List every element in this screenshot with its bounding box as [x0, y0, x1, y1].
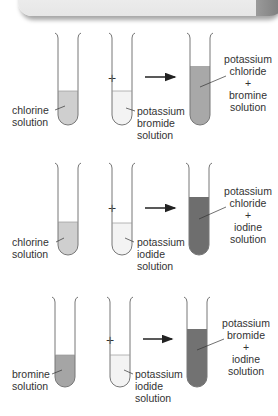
label-reactant1: chlorine solution [12, 236, 64, 260]
reaction-2: + chlorine solution potassium iodide sol… [12, 163, 272, 272]
svg-text:solution: solution [137, 129, 173, 141]
liquid-fill [190, 66, 210, 125]
test-tube-product [186, 163, 212, 255]
svg-text:potassium: potassium [135, 368, 183, 380]
svg-text:chloride: chloride [230, 65, 267, 77]
label-product: potassium bromide + iodine solution [197, 317, 270, 377]
svg-text:solution: solution [12, 116, 48, 128]
test-tube-product [184, 297, 210, 387]
reaction-diagram: + chlorine solution potassium bromide so… [0, 0, 278, 416]
svg-text:potassium: potassium [224, 185, 272, 197]
liquid-fill [58, 222, 78, 255]
label-reactant2: potassium bromide solution [126, 105, 185, 141]
svg-text:solution: solution [230, 233, 266, 245]
liquid-fill [55, 355, 75, 387]
svg-text:solution: solution [12, 248, 48, 260]
svg-text:solution: solution [137, 260, 173, 272]
svg-text:bromine: bromine [12, 368, 50, 380]
test-tube-chlorine [55, 33, 81, 125]
liquid-fill [189, 197, 209, 255]
svg-text:+: + [245, 77, 251, 89]
liquid-fill [187, 329, 207, 387]
test-tube-product [187, 33, 213, 125]
label-product: potassium chloride + bromine solution [200, 53, 272, 113]
svg-text:solution: solution [12, 380, 48, 392]
svg-text:solution: solution [230, 101, 266, 113]
svg-text:iodide: iodide [137, 248, 165, 260]
liquid-fill [112, 223, 132, 255]
svg-text:potassium: potassium [224, 53, 272, 65]
svg-text:solution: solution [228, 365, 264, 377]
svg-text:solution: solution [135, 392, 171, 404]
svg-text:iodide: iodide [135, 380, 163, 392]
svg-text:bromine: bromine [229, 89, 267, 101]
svg-text:potassium: potassium [137, 236, 185, 248]
svg-text:bromide: bromide [137, 117, 175, 129]
test-tube-bromine [52, 297, 78, 387]
svg-text:potassium: potassium [137, 105, 185, 117]
label-product: potassium chloride + iodine solution [199, 185, 272, 245]
liquid-fill [58, 91, 78, 125]
reaction-3: + bromine solution potassium iodide solu… [12, 297, 270, 404]
svg-text:bromide: bromide [227, 329, 265, 341]
label-reactant2: potassium iodide solution [124, 368, 183, 404]
svg-text:chlorine: chlorine [12, 104, 49, 116]
svg-text:chlorine: chlorine [12, 236, 49, 248]
svg-text:iodine: iodine [232, 353, 260, 365]
label-reactant2: potassium iodide solution [125, 236, 185, 272]
test-tube-chlorine [55, 163, 81, 255]
reaction-1: + chlorine solution potassium bromide so… [12, 33, 272, 141]
svg-text:+: + [245, 209, 251, 221]
label-reactant1: chlorine solution [12, 104, 65, 128]
svg-text:+: + [243, 341, 249, 353]
svg-text:iodine: iodine [234, 221, 262, 233]
liquid-fill [112, 91, 132, 125]
svg-text:potassium: potassium [222, 317, 270, 329]
svg-text:chloride: chloride [230, 197, 267, 209]
